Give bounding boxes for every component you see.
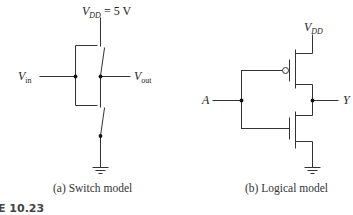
output-y-label: Y — [343, 94, 350, 106]
upper-switch-blade — [101, 48, 105, 76]
figure-number: E 10.23 — [0, 202, 44, 215]
vin-label: Vin — [18, 70, 32, 85]
lower-switch-blade — [101, 108, 105, 136]
control-bracket — [76, 46, 98, 106]
ground-icon — [93, 168, 108, 174]
vout-junction-dot — [99, 75, 103, 79]
vout-sub: out — [141, 76, 151, 85]
vin-sub: in — [25, 76, 31, 85]
logical-model-circuit — [213, 35, 338, 174]
pmos-bubble-icon — [283, 68, 289, 74]
switch-model-circuit — [40, 18, 130, 174]
vout-label: Vout — [134, 70, 152, 85]
a-junction-dot — [240, 99, 244, 103]
input-a-label: A — [202, 94, 209, 106]
vin-junction-dot — [74, 75, 78, 79]
drain-output-wire — [296, 85, 313, 116]
figure-10-23: VDD = 5 V Vin Vout (a) Switch model VDD … — [0, 0, 353, 215]
ground-icon — [305, 168, 320, 174]
caption-switch-model: (a) Switch model — [53, 183, 132, 195]
vdd-sub: DD — [311, 27, 323, 36]
vdd-value: = 5 V — [101, 4, 131, 18]
y-junction-dot — [311, 99, 315, 103]
nmos-source-wire — [296, 142, 313, 168]
lower-switch-dot — [99, 134, 103, 138]
vdd-sub: DD — [89, 11, 101, 20]
caption-logical-model: (b) Logical model — [245, 183, 328, 195]
vdd-label-logical: VDD — [304, 21, 323, 36]
vdd-supply-label: VDD = 5 V — [82, 5, 131, 20]
pmos-source-wire — [296, 35, 313, 54]
